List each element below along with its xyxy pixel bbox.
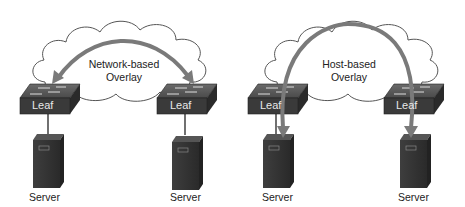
server-label: Server bbox=[398, 191, 429, 204]
server-icon bbox=[172, 136, 203, 190]
server-label: Server bbox=[29, 191, 60, 204]
server-label: Server bbox=[170, 191, 201, 204]
leaf-label: Leaf bbox=[260, 99, 281, 111]
overlay-label-line1: Network-based bbox=[84, 58, 164, 71]
leaf-label: Leaf bbox=[32, 99, 53, 111]
server-icon bbox=[263, 134, 294, 188]
server-label: Server bbox=[262, 191, 293, 204]
overlay-label-network: Network-based Overlay bbox=[84, 58, 164, 84]
overlay-diagram: Network-based Overlay Host-based Overlay… bbox=[0, 0, 465, 207]
leaf-label: Leaf bbox=[396, 99, 417, 111]
server-icon bbox=[400, 134, 431, 188]
overlay-label-line2: Overlay bbox=[84, 71, 164, 84]
overlay-label-line1: Host-based bbox=[314, 58, 384, 71]
overlay-label-host: Host-based Overlay bbox=[314, 58, 384, 84]
overlay-label-line2: Overlay bbox=[314, 71, 384, 84]
server-icon bbox=[33, 134, 64, 188]
leaf-label: Leaf bbox=[170, 99, 191, 111]
